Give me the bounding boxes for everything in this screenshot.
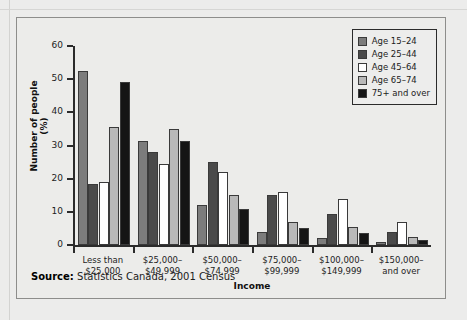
bar bbox=[418, 240, 428, 245]
y-tick-label: 10 bbox=[37, 207, 63, 216]
y-axis-line bbox=[73, 46, 75, 246]
bar bbox=[120, 82, 130, 245]
x-tick-label: $150,000– bbox=[366, 255, 436, 266]
source-text: Statistics Canada, 2001 Census bbox=[77, 271, 235, 282]
bar bbox=[387, 232, 397, 245]
bar bbox=[317, 238, 327, 245]
bar bbox=[408, 237, 418, 245]
page-edge-top bbox=[0, 9, 467, 10]
bar bbox=[197, 205, 207, 245]
x-tick bbox=[371, 247, 373, 253]
y-tick bbox=[67, 111, 73, 113]
bar bbox=[338, 199, 348, 245]
bar bbox=[169, 129, 179, 245]
bar bbox=[348, 227, 358, 245]
y-axis-title: Number of people (%) bbox=[29, 71, 49, 181]
legend-swatch bbox=[358, 76, 367, 85]
x-category-label: $150,000–and over bbox=[366, 255, 436, 277]
legend-swatch bbox=[358, 89, 367, 98]
bar bbox=[159, 164, 169, 245]
legend-label: Age 15–24 bbox=[372, 37, 417, 46]
bar bbox=[138, 141, 148, 245]
y-tick bbox=[67, 211, 73, 213]
bar bbox=[99, 182, 109, 245]
legend-label: Age 65–74 bbox=[372, 76, 417, 85]
bar bbox=[229, 195, 239, 245]
chart-legend: Age 15–24Age 25–44Age 45–64Age 65–7475+ … bbox=[352, 29, 437, 105]
legend-label: Age 25–44 bbox=[372, 50, 417, 59]
legend-swatch bbox=[358, 63, 367, 72]
bar bbox=[78, 71, 88, 245]
y-tick-label: 60 bbox=[37, 41, 63, 50]
y-tick bbox=[67, 78, 73, 80]
source-note: Source: Statistics Canada, 2001 Census bbox=[31, 271, 235, 282]
bar bbox=[180, 141, 190, 245]
x-tick bbox=[312, 247, 314, 253]
legend-item: 75+ and over bbox=[358, 87, 430, 99]
bar bbox=[359, 233, 369, 245]
legend-label: 75+ and over bbox=[372, 89, 430, 98]
legend-item: Age 45–64 bbox=[358, 61, 430, 73]
bar bbox=[208, 162, 218, 245]
x-tick bbox=[133, 247, 135, 253]
legend-item: Age 25–44 bbox=[358, 48, 430, 60]
bar bbox=[148, 152, 158, 245]
y-tick bbox=[67, 178, 73, 180]
bar bbox=[397, 222, 407, 245]
y-tick bbox=[67, 145, 73, 147]
legend-swatch bbox=[358, 50, 367, 59]
x-tick bbox=[192, 247, 194, 253]
bar bbox=[278, 192, 288, 245]
page-edge-left bbox=[9, 0, 10, 320]
figure-panel: 0102030405060 Number of people (%) Less … bbox=[16, 17, 446, 299]
x-tick bbox=[73, 247, 75, 253]
legend-label: Age 45–64 bbox=[372, 63, 417, 72]
bar bbox=[267, 195, 277, 245]
bar bbox=[327, 214, 337, 246]
bar bbox=[257, 232, 267, 245]
chart-plot-area: 0102030405060 Number of people (%) Less … bbox=[17, 18, 447, 263]
legend-item: Age 65–74 bbox=[358, 74, 430, 86]
x-tick bbox=[252, 247, 254, 253]
x-tick-label: and over bbox=[366, 266, 436, 277]
bar bbox=[218, 172, 228, 245]
y-tick bbox=[67, 244, 73, 246]
legend-swatch bbox=[358, 37, 367, 46]
bar bbox=[299, 228, 309, 245]
y-tick bbox=[67, 45, 73, 47]
bar bbox=[88, 184, 98, 245]
bar bbox=[288, 222, 298, 245]
page-background: 0102030405060 Number of people (%) Less … bbox=[0, 0, 467, 320]
source-label: Source: bbox=[31, 271, 74, 282]
bar bbox=[109, 127, 119, 245]
x-axis-title: Income bbox=[73, 281, 431, 291]
legend-item: Age 15–24 bbox=[358, 35, 430, 47]
y-tick-label: 0 bbox=[37, 240, 63, 249]
bar bbox=[376, 242, 386, 245]
bar bbox=[239, 209, 249, 245]
